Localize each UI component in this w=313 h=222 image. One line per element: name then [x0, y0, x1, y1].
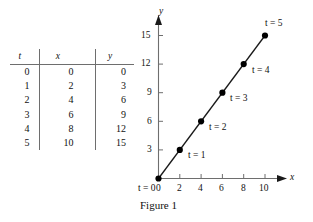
y-tick-label-3: 3: [147, 144, 152, 154]
data-point-t4: [241, 61, 247, 67]
table-row: 3 6 9: [10, 108, 134, 122]
column-header-t: t: [10, 49, 40, 65]
data-point-t5: [262, 32, 268, 38]
table-row: 5 10 15: [10, 136, 134, 150]
column-header-x: x: [40, 49, 96, 65]
coordinate-plot: y x 15 12 9 6 3 0 2 4 6 8 10 t = 0 t = 1…: [128, 4, 310, 222]
data-point-t1: [177, 147, 183, 153]
table-body: 0 0 0 1 2 3 2 4 6 3 6 9 4 8 12: [10, 65, 134, 151]
y-tick-label-6: 6: [147, 116, 152, 126]
table-row: 0 0 0: [10, 65, 134, 80]
table-row: 4 8 12: [10, 122, 134, 136]
cell-t: 2: [10, 93, 40, 107]
x-axis-label: x: [290, 172, 294, 182]
data-point-t3: [219, 90, 225, 96]
cell-t: 5: [10, 136, 40, 150]
x-tick-label-8: 8: [241, 183, 246, 193]
point-label-t0: t = 0: [138, 183, 156, 193]
values-table: t x y 0 0 0 1 2 3 2 4 6 3 6: [10, 49, 134, 150]
x-tick-label-0: 0: [156, 183, 161, 193]
y-tick-label-12: 12: [141, 58, 151, 68]
plot-canvas: [128, 4, 310, 204]
x-tick-label-4: 4: [198, 183, 203, 193]
cell-x: 10: [40, 136, 96, 150]
y-axis-label: y: [159, 6, 163, 16]
y-tick-label-15: 15: [141, 30, 151, 40]
cell-t: 1: [10, 79, 40, 93]
cell-x: 6: [40, 108, 96, 122]
cell-t: 0: [10, 65, 40, 80]
cell-x: 8: [40, 122, 96, 136]
data-point-t2: [198, 118, 204, 124]
cell-x: 4: [40, 93, 96, 107]
point-label-t5: t = 5: [265, 18, 283, 28]
y-axis-arrowhead: [155, 15, 162, 25]
point-label-t3: t = 3: [230, 93, 248, 103]
table-header-row: t x y: [10, 49, 134, 65]
cell-x: 0: [40, 65, 96, 80]
x-tick-label-10: 10: [259, 183, 269, 193]
point-label-t1: t = 1: [188, 150, 206, 160]
y-tick-label-9: 9: [147, 87, 152, 97]
data-table: t x y 0 0 0 1 2 3 2 4 6 3 6: [10, 49, 134, 161]
data-line: [159, 36, 266, 179]
x-tick-label-6: 6: [219, 183, 224, 193]
cell-t: 3: [10, 108, 40, 122]
table-header: t x y: [10, 49, 134, 65]
point-label-t4: t = 4: [252, 65, 270, 75]
point-label-t2: t = 2: [209, 122, 227, 132]
x-axis-arrowhead: [277, 175, 287, 182]
data-point-t0: [155, 175, 161, 181]
table-row: 2 4 6: [10, 93, 134, 107]
table-row: 1 2 3: [10, 79, 134, 93]
cell-x: 2: [40, 79, 96, 93]
figure-caption: Figure 1: [140, 199, 177, 211]
cell-t: 4: [10, 122, 40, 136]
x-tick-label-2: 2: [177, 183, 182, 193]
